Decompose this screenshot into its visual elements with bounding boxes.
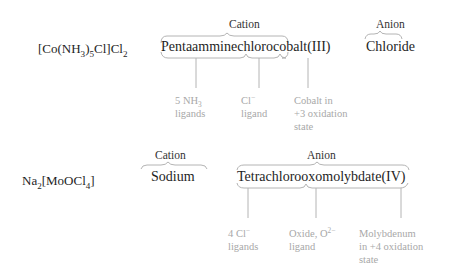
note-line: +3 oxidation — [294, 107, 347, 120]
note-line: ligands — [228, 240, 258, 253]
note-line: Molybdenum — [359, 227, 423, 240]
note-line: in +4 oxidation — [359, 240, 423, 253]
note-cobalt-oxidation: Cobalt in +3 oxidation state — [294, 94, 347, 133]
anion-label-2: Anion — [307, 150, 336, 162]
note-line: Cobalt in — [294, 94, 347, 107]
anion-label-1: Anion — [376, 19, 405, 31]
note-ligand-cl: Cl− ligand — [241, 94, 267, 120]
cation-label-2: Cation — [155, 150, 186, 162]
note-line: Oxide, O — [289, 228, 328, 239]
note-line: state — [359, 253, 423, 266]
anion-brace-top-1 — [365, 31, 402, 39]
note-line: 5 NH — [175, 95, 198, 106]
formula-part: ] — [90, 173, 94, 188]
note-sup: 2− — [328, 226, 336, 235]
formula-part: [Co(NH — [38, 41, 81, 56]
note-line: 4 Cl — [228, 228, 246, 239]
note-line: state — [294, 120, 347, 133]
formula-2: Na2[MoOCl4] — [22, 174, 95, 187]
formula-part: [MoOCl — [42, 173, 86, 188]
note-sup: − — [246, 226, 250, 235]
formula-part: Na — [22, 173, 37, 188]
note-molybdenum-oxidation: Molybdenum in +4 oxidation state — [359, 227, 423, 266]
note-line: ligand — [241, 107, 267, 120]
formula-sub: 2 — [123, 49, 128, 59]
note-ligands-nh3: 5 NH3 ligands — [175, 94, 205, 120]
cation-label-1: Cation — [229, 19, 260, 31]
note-ligands-cl: 4 Cl− ligands — [228, 227, 258, 253]
cation-name-1: Pentaamminechlorocobalt(III) — [161, 40, 330, 54]
formula-1: [Co(NH3)5Cl]Cl2 — [38, 42, 128, 55]
note-line: ligands — [175, 107, 205, 120]
cation-name-2: Sodium — [151, 170, 195, 184]
anion-name-1: Chloride — [366, 40, 415, 54]
cation-brace-top-2 — [141, 162, 207, 169]
note-line: ligand — [289, 240, 335, 253]
note-ligand-oxide: Oxide, O2− ligand — [289, 227, 335, 253]
anion-name-2: Tetrachlorooxomolybdate(IV) — [237, 170, 406, 184]
note-line: Cl — [241, 95, 251, 106]
formula-part: Cl]Cl — [94, 41, 123, 56]
note-sup: − — [251, 93, 255, 102]
